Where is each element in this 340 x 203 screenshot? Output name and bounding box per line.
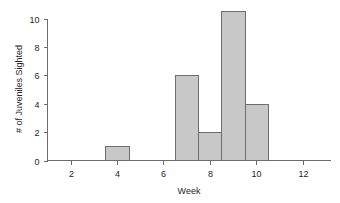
x-axis-tick-label: 12 — [298, 169, 308, 179]
y-axis-tick-label: 4 — [34, 100, 39, 110]
y-axis-tick-label: 8 — [34, 43, 39, 53]
y-axis-tick-label: 6 — [34, 71, 39, 81]
y-axis-ticks: 0246810 — [29, 15, 47, 167]
bar — [246, 105, 269, 161]
x-axis-tick-label: 6 — [161, 169, 166, 179]
bar — [106, 147, 130, 161]
x-axis-title: Week — [178, 186, 201, 196]
bar — [176, 76, 199, 161]
bar — [222, 12, 246, 161]
bars-group — [106, 12, 269, 161]
x-axis-tick-label: 2 — [69, 169, 74, 179]
chart-container: 0246810 24681012 Week # of Juveniles Sig… — [0, 0, 340, 203]
x-axis-tick-label: 8 — [208, 169, 213, 179]
x-axis-ticks: 24681012 — [69, 161, 309, 179]
x-axis-tick-label: 10 — [251, 169, 261, 179]
y-axis-title: # of Juveniles Sighted — [14, 45, 24, 133]
bar — [199, 133, 222, 161]
y-axis-tick-label: 0 — [34, 157, 39, 167]
y-axis-tick-label: 10 — [29, 15, 39, 25]
bar-chart: 0246810 24681012 Week # of Juveniles Sig… — [0, 0, 340, 203]
y-axis-tick-label: 2 — [34, 128, 39, 138]
x-axis-tick-label: 4 — [115, 169, 120, 179]
